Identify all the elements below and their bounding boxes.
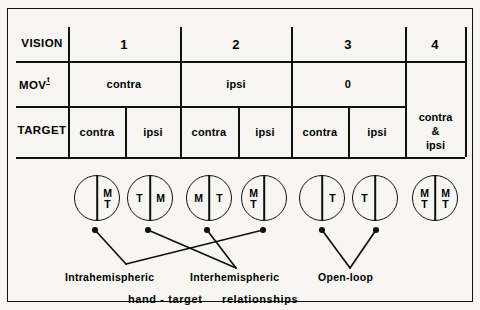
figure-root: left hand VISION MOVt TARGET 1 2 3 4 con… xyxy=(0,0,480,310)
annotation-interhemispheric: Interhemispheric xyxy=(190,271,279,283)
leader-line-c5-open xyxy=(322,230,350,268)
annotation-intrahemispheric: Intrahemispheric xyxy=(65,271,154,283)
leader-line-c6-open xyxy=(350,230,376,268)
leader-lines xyxy=(0,0,480,310)
figure-caption-part-2: relationships xyxy=(222,293,298,305)
leader-line-c4-intra xyxy=(126,230,263,264)
leader-line-c2-inter xyxy=(148,230,236,268)
figure-caption-part-1: hand - target xyxy=(128,293,202,305)
leader-line-c1-intra xyxy=(95,230,126,264)
annotation-open-loop: Open-loop xyxy=(318,271,373,283)
